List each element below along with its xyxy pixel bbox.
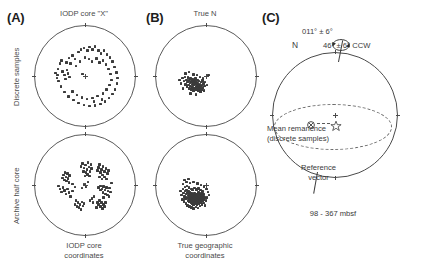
data-point (205, 188, 208, 191)
data-point (65, 61, 68, 64)
data-point (183, 179, 186, 182)
data-point (71, 90, 74, 93)
data-point (64, 78, 67, 81)
data-point (56, 74, 59, 77)
data-point (103, 205, 106, 208)
cardinal-tick (396, 115, 400, 116)
data-point (69, 62, 72, 65)
data-point (195, 93, 198, 96)
data-point (71, 183, 74, 186)
data-point (98, 61, 101, 64)
data-point (106, 172, 109, 175)
data-point (89, 170, 92, 173)
cardinal-tick (270, 115, 274, 116)
data-point (59, 62, 62, 65)
data-point (116, 77, 119, 80)
caption-iodp-core-coordinates: IODP core coordinates (24, 241, 144, 261)
cardinal-tick (206, 125, 207, 129)
data-point (95, 57, 98, 60)
mean-remanence-line1: Mean remanence (267, 124, 329, 134)
data-point (189, 92, 192, 95)
data-point (104, 201, 107, 204)
data-point (185, 181, 188, 184)
data-point (102, 59, 105, 62)
reorientation-diagram (272, 52, 398, 178)
caption-true-geographic-coordinates: True geographic coordinates (145, 241, 265, 261)
data-point (204, 204, 207, 207)
caption-a-line2: coordinates (24, 251, 144, 261)
reference-vector-line2: vector (301, 173, 336, 183)
data-point (105, 88, 108, 91)
cardinal-tick (32, 185, 36, 186)
cardinal-tick (206, 23, 207, 27)
data-point (68, 174, 71, 177)
data-point (109, 56, 112, 59)
data-point (108, 195, 111, 198)
data-point (86, 49, 89, 52)
data-point (187, 178, 190, 181)
data-point (61, 70, 64, 73)
caption-a-line1: IODP core (24, 241, 144, 251)
data-point (84, 164, 87, 167)
data-point (99, 189, 102, 192)
mean-remanence-label: Mean remanence (discrete samples) (267, 124, 329, 144)
data-point (77, 102, 80, 105)
data-point (96, 201, 99, 204)
mean-remanence-line2: (discrete samples) (267, 134, 329, 144)
panel-letter-a: (A) (7, 10, 24, 25)
data-point (81, 96, 84, 99)
data-point (74, 203, 77, 206)
data-point (57, 80, 60, 83)
data-point (74, 186, 77, 189)
data-point (110, 182, 113, 185)
reference-vector-line1: Reference (301, 163, 336, 173)
data-point (66, 188, 69, 191)
data-point (192, 181, 195, 184)
cardinal-tick (85, 132, 86, 136)
data-point (80, 48, 83, 51)
stereonet-discrete-core-coords (34, 25, 136, 127)
data-point (197, 207, 200, 210)
cardinal-tick (206, 234, 207, 238)
reference-vector-label: Reference vector (301, 163, 336, 183)
data-point (104, 100, 107, 103)
data-point (67, 95, 70, 98)
row-label-discrete-samples: Discrete samples (12, 48, 21, 106)
data-point (76, 94, 79, 97)
data-point (180, 82, 183, 85)
data-point (109, 73, 112, 76)
data-point (82, 170, 85, 173)
data-point (105, 63, 108, 66)
data-point (79, 60, 82, 63)
data-point (97, 186, 100, 189)
data-point (87, 161, 90, 164)
data-point (101, 178, 104, 181)
data-point (196, 74, 199, 77)
data-point (83, 202, 86, 205)
stereonet-discrete-true-coords (155, 25, 257, 127)
stereonet-archive-true-coords (155, 134, 257, 236)
data-point (77, 51, 80, 54)
data-point (202, 77, 205, 80)
data-point (84, 56, 87, 59)
cardinal-tick (85, 234, 86, 238)
data-point (68, 76, 71, 79)
cardinal-tick (85, 125, 86, 129)
data-point (63, 74, 66, 77)
data-point (203, 89, 206, 92)
data-point (111, 60, 114, 63)
data-point (115, 71, 118, 74)
data-point (81, 73, 84, 76)
data-point (101, 98, 104, 101)
data-point (54, 72, 57, 75)
cardinal-tick (134, 76, 138, 77)
data-point (71, 54, 74, 57)
data-point (102, 92, 105, 95)
data-point (75, 199, 78, 202)
row-label-archive-half-core: Archive half core (12, 167, 21, 224)
data-point (82, 205, 85, 208)
data-point (90, 167, 93, 170)
cardinal-tick (153, 185, 157, 186)
caption-b-line2: coordinates (145, 251, 265, 261)
data-point (103, 49, 106, 52)
